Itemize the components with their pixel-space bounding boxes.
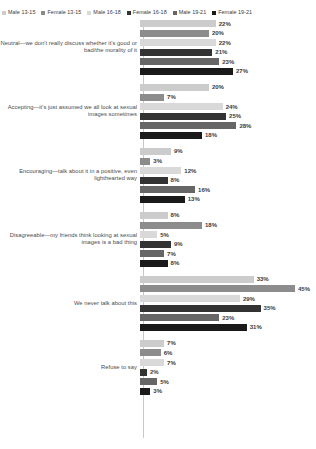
bar-value-label: 16% [195,187,210,193]
bar-group-list: Neutral—we don't really discuss whether … [0,20,316,395]
bar-row: 23% [140,58,316,65]
bar-row: 28% [140,122,316,129]
category-label: Disagreeable—my friends think looking at… [0,232,140,247]
bar-value-label: 23% [219,59,234,65]
bar-stack: 22%20%22%21%23%27% [140,20,316,75]
bar-row: 33% [140,276,316,283]
bar[interactable] [140,276,254,283]
bar-row: 31% [140,324,316,331]
bar-row: 8% [140,260,316,267]
bar[interactable] [140,349,161,356]
bar-row: 5% [140,378,316,385]
bar-value-label: 22% [216,21,231,27]
legend-item[interactable]: Female 13-15 [41,10,81,15]
bar-value-label: 7% [164,360,176,366]
bar-row: 20% [140,30,316,37]
bar[interactable] [140,295,240,302]
bar[interactable] [140,58,219,65]
bar[interactable] [140,305,261,312]
bar-value-label: 7% [164,94,176,100]
bar[interactable] [140,212,168,219]
bar-row: 6% [140,349,316,356]
bar-value-label: 3% [150,158,162,164]
legend-item[interactable]: Male 13-15 [2,10,35,15]
bar[interactable] [140,231,157,238]
bar-group: Accepting—it's just assumed we all look … [0,84,316,139]
bar-stack: 20%7%24%25%28%18% [140,84,316,139]
legend-item[interactable]: Female 16-18 [127,10,167,15]
bar[interactable] [140,158,150,165]
bar-value-label: 35% [261,305,276,311]
bar[interactable] [140,167,181,174]
bar[interactable] [140,260,168,267]
bar[interactable] [140,324,247,331]
bar-value-label: 2% [147,369,159,375]
bar-value-label: 13% [185,196,200,202]
bar[interactable] [140,49,212,56]
legend-item-label: Male 16-18 [93,10,120,15]
bar-value-label: 28% [236,123,251,129]
bar[interactable] [140,122,236,129]
bar[interactable] [140,186,195,193]
legend-item-label: Female 19-21 [218,10,252,15]
bar-value-label: 33% [254,276,269,282]
legend-item-label: Female 13-15 [47,10,81,15]
legend-swatch-icon [41,11,45,15]
bar[interactable] [140,84,209,91]
bar-value-label: 24% [223,104,238,110]
bar[interactable] [140,314,219,321]
bar[interactable] [140,340,164,347]
bar[interactable] [140,132,202,139]
bar-value-label: 23% [219,315,234,321]
bar-row: 9% [140,241,316,248]
bar[interactable] [140,222,202,229]
bar-value-label: 45% [295,286,310,292]
bar[interactable] [140,113,226,120]
bar[interactable] [140,285,295,292]
bar[interactable] [140,378,157,385]
legend-item[interactable]: Female 19-21 [212,10,252,15]
legend-swatch-icon [173,11,177,15]
bar[interactable] [140,369,147,376]
category-label: Refuse to say [0,364,140,372]
bar-row: 2% [140,369,316,376]
chart-legend: Male 13-15Female 13-15Male 16-18Female 1… [0,0,316,19]
legend-item[interactable]: Male 19-21 [173,10,206,15]
bar[interactable] [140,241,171,248]
bar-value-label: 20% [209,84,224,90]
bar-row: 22% [140,39,316,46]
bar-value-label: 3% [150,388,162,394]
bar-row: 7% [140,359,316,366]
bar-stack: 7%6%7%2%5%3% [140,340,316,395]
bar-stack: 33%45%29%35%23%31% [140,276,316,331]
bar[interactable] [140,30,209,37]
bar-row: 21% [140,49,316,56]
bar-row: 18% [140,132,316,139]
bar[interactable] [140,388,150,395]
legend-item-label: Female 16-18 [133,10,167,15]
bar-value-label: 6% [161,350,173,356]
bar[interactable] [140,68,233,75]
bar-value-label: 20% [209,30,224,36]
bar[interactable] [140,196,185,203]
category-label: Neutral—we don't really discuss whether … [0,40,140,55]
bar-group: Neutral—we don't really discuss whether … [0,20,316,75]
bar-row: 7% [140,94,316,101]
bar[interactable] [140,177,168,184]
legend-item[interactable]: Male 16-18 [87,10,120,15]
bar-value-label: 8% [168,260,180,266]
bar-row: 7% [140,250,316,257]
bar[interactable] [140,103,223,110]
bar[interactable] [140,94,164,101]
bar-value-label: 5% [157,379,169,385]
bar-value-label: 31% [247,324,262,330]
bar-value-label: 12% [181,168,196,174]
bar[interactable] [140,20,216,27]
legend-swatch-icon [2,11,6,15]
bar-value-label: 22% [216,40,231,46]
bar-row: 7% [140,340,316,347]
bar[interactable] [140,250,164,257]
bar[interactable] [140,359,164,366]
bar[interactable] [140,148,171,155]
bar[interactable] [140,39,216,46]
